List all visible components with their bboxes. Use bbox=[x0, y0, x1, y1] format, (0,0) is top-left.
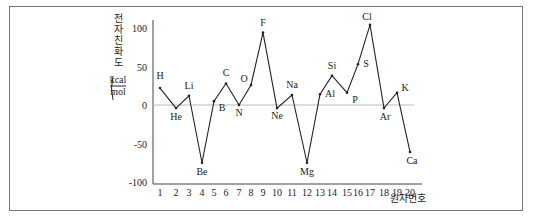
element-label: P bbox=[352, 94, 358, 105]
data-point bbox=[262, 31, 265, 34]
data-point bbox=[409, 151, 412, 154]
element-label: Al bbox=[325, 88, 335, 99]
element-label: B bbox=[219, 102, 226, 113]
y-label-char: 친 bbox=[114, 35, 123, 46]
data-point bbox=[276, 107, 279, 110]
element-label: F bbox=[260, 17, 266, 28]
element-label: Si bbox=[328, 60, 337, 71]
data-point bbox=[213, 100, 216, 103]
x-tick-label: 9 bbox=[261, 187, 266, 198]
data-point bbox=[369, 24, 372, 27]
data-point bbox=[250, 84, 253, 87]
x-tick-label: 10 bbox=[272, 187, 282, 198]
element-label: Ne bbox=[271, 110, 283, 121]
element-label: N bbox=[235, 107, 242, 118]
element-label: H bbox=[156, 70, 163, 81]
data-point bbox=[331, 74, 334, 77]
data-point bbox=[383, 107, 386, 110]
y-tick-label: -50 bbox=[134, 139, 147, 150]
y-tick-label: -100 bbox=[129, 177, 147, 188]
data-point bbox=[225, 82, 228, 85]
element-label: Ca bbox=[406, 155, 418, 166]
axes: 100500-50-100123456789101112131415161718… bbox=[129, 20, 422, 198]
x-axis-label: 원자번호 bbox=[390, 193, 426, 204]
x-tick-label: 1 bbox=[158, 187, 163, 198]
unit-numerator: kcal bbox=[110, 74, 127, 85]
element-label: Na bbox=[286, 79, 298, 90]
x-tick-label: 2 bbox=[174, 187, 179, 198]
element-label: Cl bbox=[362, 11, 372, 22]
data-point bbox=[291, 94, 294, 97]
y-label-char: 도 bbox=[114, 57, 123, 68]
x-tick-label: 13 bbox=[315, 187, 325, 198]
y-label-char: 화 bbox=[114, 46, 123, 57]
data-point bbox=[175, 107, 178, 110]
x-tick-label: 8 bbox=[249, 187, 254, 198]
y-axis-label: 전자친화도kcalmol bbox=[110, 13, 127, 100]
x-tick-label: 17 bbox=[365, 187, 375, 198]
data-point bbox=[201, 161, 204, 164]
element-label: O bbox=[240, 73, 247, 84]
x-tick-label: 14 bbox=[327, 187, 337, 198]
x-tick-label: 11 bbox=[287, 187, 297, 198]
x-tick-label: 7 bbox=[237, 187, 242, 198]
y-label-char: 자 bbox=[114, 24, 123, 35]
data-point bbox=[346, 91, 349, 94]
data-point bbox=[319, 93, 322, 96]
data-point bbox=[306, 161, 309, 164]
data-point bbox=[357, 63, 360, 66]
y-tick-label: 100 bbox=[132, 23, 147, 34]
data-line bbox=[160, 25, 410, 163]
x-tick-label: 15 bbox=[342, 187, 352, 198]
element-label: Mg bbox=[300, 166, 314, 177]
x-tick-label: 16 bbox=[353, 187, 363, 198]
y-label-char: 전 bbox=[114, 13, 123, 24]
data-point bbox=[238, 104, 241, 107]
y-tick-label: 0 bbox=[142, 100, 147, 111]
element-label: K bbox=[401, 82, 409, 93]
electron-affinity-chart: 100500-50-100123456789101112131415161718… bbox=[0, 0, 533, 219]
unit-denominator: mol bbox=[110, 86, 126, 97]
element-label: Be bbox=[196, 166, 208, 177]
data-point bbox=[188, 94, 191, 97]
element-label: C bbox=[223, 67, 230, 78]
x-tick-label: 6 bbox=[224, 187, 229, 198]
data-point bbox=[396, 91, 399, 94]
element-label: Li bbox=[185, 80, 194, 91]
x-tick-label: 12 bbox=[302, 187, 312, 198]
element-label: Ar bbox=[380, 111, 391, 122]
x-tick-label: 5 bbox=[212, 187, 217, 198]
x-tick-label: 18 bbox=[379, 187, 389, 198]
x-tick-label: 4 bbox=[200, 187, 205, 198]
y-tick-label: 50 bbox=[137, 62, 147, 73]
element-label: He bbox=[170, 111, 182, 122]
x-tick-label: 3 bbox=[187, 187, 192, 198]
data-point bbox=[159, 87, 162, 90]
plot-area: HHeLiBeBCNOFNeNaMgAlSiPSClArKCa bbox=[156, 11, 418, 177]
element-label: S bbox=[363, 58, 369, 69]
